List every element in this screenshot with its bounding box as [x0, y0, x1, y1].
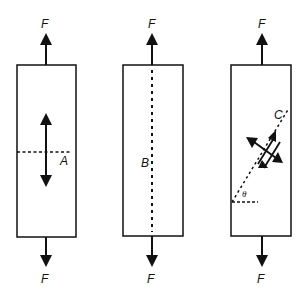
- force-arrow-down-icon: [146, 236, 158, 267]
- force-label-bottom: F: [41, 272, 49, 286]
- section-label-b: B: [141, 156, 149, 170]
- panel-right: F F C θ: [231, 17, 291, 286]
- force-label-bottom: F: [147, 272, 155, 286]
- force-arrow-down-icon: [256, 236, 268, 267]
- section-label-c: C: [274, 108, 283, 122]
- angle-label-theta: θ: [242, 189, 247, 199]
- panel-left: F F A: [17, 17, 76, 286]
- force-label-top: F: [258, 17, 266, 31]
- stress-diagram: F F A F F B: [0, 0, 306, 291]
- force-arrow-up-icon: [146, 33, 158, 65]
- inclined-section-line: [232, 108, 289, 202]
- force-arrow-up-icon: [40, 33, 52, 65]
- force-arrow-down-icon: [40, 237, 52, 267]
- force-label-bottom: F: [257, 272, 265, 286]
- section-label-a: A: [59, 154, 68, 168]
- panel-middle: F F B: [123, 17, 183, 286]
- force-label-top: F: [148, 17, 156, 31]
- force-arrow-up-icon: [256, 33, 268, 65]
- normal-arrows-icon: [246, 137, 283, 163]
- bar-right: [231, 65, 291, 236]
- double-arrow-icon: [40, 113, 52, 187]
- force-label-top: F: [41, 17, 49, 31]
